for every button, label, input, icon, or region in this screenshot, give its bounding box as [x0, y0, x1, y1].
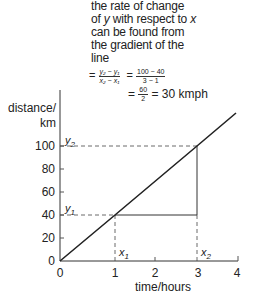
svg-text:0: 0	[57, 266, 64, 280]
svg-text:0: 0	[48, 254, 55, 268]
svg-text:20: 20	[42, 231, 56, 245]
svg-text:40: 40	[42, 208, 56, 222]
distance-time-line	[60, 113, 236, 261]
x-axis-label: time/hours	[135, 280, 191, 294]
x-tick-labels: 0 1 2 3 4	[57, 266, 241, 280]
y-tick-labels: 0 20 40 60 80 100	[35, 139, 55, 268]
svg-text:60: 60	[42, 185, 56, 199]
svg-text:2: 2	[152, 266, 159, 280]
svg-text:1: 1	[112, 266, 119, 280]
svg-text:100: 100	[35, 139, 55, 153]
x1-label: x1	[118, 246, 129, 261]
y-ticks	[60, 146, 64, 238]
svg-text:3: 3	[195, 266, 202, 280]
svg-text:4: 4	[234, 266, 241, 280]
y-axis-label-line1: distance/	[8, 101, 57, 115]
svg-text:80: 80	[42, 162, 56, 176]
x2-label: x2	[200, 246, 212, 261]
x-ticks	[155, 256, 238, 261]
y-axis-label-line2: km	[40, 116, 56, 130]
distance-time-chart: 0 20 40 60 80 100 0 1 2 3 4 time/hours d…	[0, 0, 253, 306]
y2-label: y2	[64, 134, 76, 149]
